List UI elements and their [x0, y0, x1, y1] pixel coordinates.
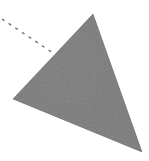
shape-annotation-canvas — [0, 0, 149, 161]
figure-svg — [0, 0, 149, 161]
